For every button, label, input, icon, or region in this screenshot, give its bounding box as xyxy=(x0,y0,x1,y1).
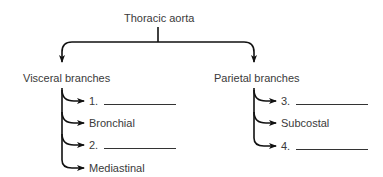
visceral-item-mediastinal: Mediastinal xyxy=(89,162,145,174)
arrow-to-visceral xyxy=(62,42,158,62)
visceral-item-1: 1. xyxy=(89,95,176,107)
item-number: 1. xyxy=(89,95,98,107)
visceral-branch-2 xyxy=(62,112,84,123)
arrow-to-parietal xyxy=(158,42,254,62)
visceral-trunk xyxy=(62,88,84,168)
parietal-item-4: 4. xyxy=(281,140,368,152)
answer-blank[interactable] xyxy=(296,141,368,150)
answer-blank[interactable] xyxy=(296,96,368,105)
visceral-item-2: 2. xyxy=(89,139,176,151)
parietal-branches-label: Parietal branches xyxy=(214,72,300,84)
parietal-item-subcostal: Subcostal xyxy=(281,117,329,129)
visceral-branch-3 xyxy=(62,134,84,145)
parietal-branch-2 xyxy=(254,112,276,123)
item-number: 2. xyxy=(89,139,98,151)
answer-blank[interactable] xyxy=(104,140,176,149)
parietal-trunk xyxy=(254,88,276,146)
root-label: Thoracic aorta xyxy=(124,12,194,24)
parietal-branch-1 xyxy=(254,90,276,101)
item-number: 4. xyxy=(281,140,290,152)
visceral-branches-label: Visceral branches xyxy=(23,72,110,84)
answer-blank[interactable] xyxy=(104,96,176,105)
item-number: 3. xyxy=(281,95,290,107)
visceral-branch-1 xyxy=(62,90,84,101)
visceral-item-bronchial: Bronchial xyxy=(89,117,135,129)
parietal-item-3: 3. xyxy=(281,95,368,107)
